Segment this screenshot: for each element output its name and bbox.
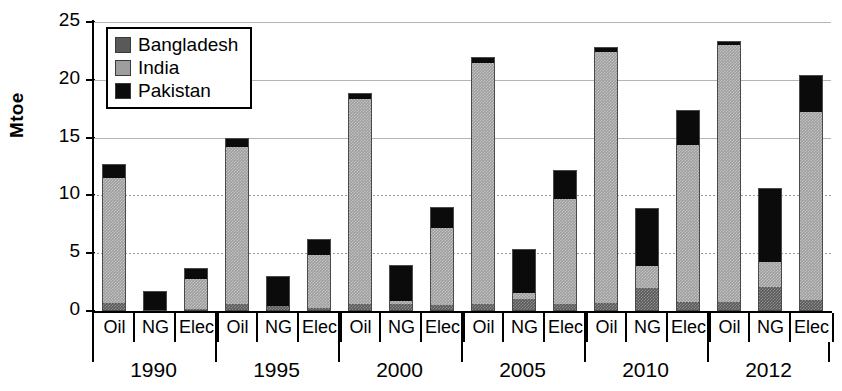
group-label-2010: 2010 [584, 358, 707, 382]
x-label-elec: Elec [789, 313, 834, 342]
bar-segment-india [636, 266, 658, 289]
legend-item: India [115, 56, 238, 79]
bar-segment-pakistan [677, 111, 699, 145]
y-tick-label: 25 [34, 9, 80, 31]
bar-segment-bangladesh [349, 304, 371, 310]
bar-1995-oil [225, 138, 249, 311]
x-label-elec: Elec [297, 313, 342, 342]
x-label-ng: NG [748, 313, 791, 342]
x-axis-group-labels: 199019952000200520102012 [92, 342, 832, 388]
x-label-ng: NG [256, 313, 299, 342]
legend-label-pakistan: Pakistan [138, 81, 211, 100]
bar-segment-pakistan [308, 240, 330, 255]
bar-segment-bangladesh [595, 303, 617, 310]
bar-segment-bangladesh [759, 287, 781, 310]
bar-1995-elec [307, 239, 331, 311]
bar-segment-pakistan [800, 76, 822, 112]
bar-segment-india [226, 147, 248, 305]
bar-segment-india [103, 178, 125, 303]
legend: Bangladesh India Pakistan [106, 27, 252, 109]
legend-swatch-india [115, 60, 131, 76]
bar-segment-india [431, 228, 453, 305]
bar-segment-bangladesh [513, 299, 535, 310]
y-tick-label: 10 [34, 182, 80, 204]
bar-2012-oil [717, 41, 741, 312]
group-label-2012: 2012 [707, 358, 830, 382]
group-label-1990: 1990 [92, 358, 215, 382]
legend-swatch-pakistan [115, 83, 131, 99]
bar-2010-elec [676, 110, 700, 311]
x-label-oil: Oil [92, 313, 135, 342]
bar-2005-oil [471, 57, 495, 311]
y-tick-label: 5 [34, 240, 80, 262]
x-label-ng: NG [502, 313, 545, 342]
x-label-elec: Elec [420, 313, 465, 342]
bar-segment-bangladesh [267, 306, 289, 310]
bar-segment-pakistan [554, 171, 576, 199]
bar-segment-pakistan [431, 208, 453, 228]
bar-segment-pakistan [185, 269, 207, 279]
bar-2012-elec [799, 75, 823, 311]
bar-2010-oil [594, 47, 618, 311]
group-label-1995: 1995 [215, 358, 338, 382]
x-label-ng: NG [133, 313, 176, 342]
x-label-oil: Oil [707, 313, 750, 342]
bar-segment-pakistan [226, 139, 248, 147]
x-label-oil: Oil [215, 313, 258, 342]
bar-1995-ng [266, 276, 290, 311]
bar-segment-india [308, 255, 330, 308]
stacked-bar-chart: Mtoe 0510152025 Bangladesh India Pakista… [0, 0, 842, 391]
legend-label-india: India [138, 58, 179, 77]
bar-2000-ng [389, 265, 413, 311]
bar-segment-bangladesh [308, 308, 330, 310]
x-label-elec: Elec [666, 313, 711, 342]
bar-segment-india [677, 145, 699, 302]
y-tick-label: 0 [34, 298, 80, 320]
bar-segment-bangladesh [554, 304, 576, 310]
bar-1990-oil [102, 164, 126, 311]
legend-swatch-bangladesh [115, 37, 131, 53]
bar-segment-bangladesh [390, 304, 412, 310]
bar-segment-india [718, 45, 740, 302]
x-label-ng: NG [625, 313, 668, 342]
y-axis-line [92, 20, 94, 313]
y-tick-label: 20 [34, 67, 80, 89]
x-label-elec: Elec [543, 313, 588, 342]
x-label-oil: Oil [338, 313, 381, 342]
bar-segment-bangladesh [718, 302, 740, 310]
bar-segment-pakistan [390, 266, 412, 301]
bar-segment-bangladesh [226, 304, 248, 310]
bar-segment-pakistan [759, 189, 781, 262]
bar-1990-ng [143, 291, 167, 311]
bar-2012-ng [758, 188, 782, 311]
bar-segment-bangladesh [800, 300, 822, 310]
bar-segment-bangladesh [103, 303, 125, 310]
bar-segment-bangladesh [185, 309, 207, 310]
x-label-ng: NG [379, 313, 422, 342]
group-label-2005: 2005 [461, 358, 584, 382]
y-tick-label: 15 [34, 125, 80, 147]
bar-1990-elec [184, 268, 208, 311]
bar-segment-india [185, 279, 207, 309]
bar-segment-pakistan [513, 250, 535, 294]
x-label-oil: Oil [461, 313, 504, 342]
bar-2000-elec [430, 207, 454, 311]
bar-segment-pakistan [636, 209, 658, 266]
bar-segment-india [595, 52, 617, 303]
bar-segment-bangladesh [431, 305, 453, 310]
bar-2005-elec [553, 170, 577, 311]
y-axis-title: Mtoe [6, 18, 28, 138]
legend-item: Pakistan [115, 79, 238, 102]
bar-2005-ng [512, 249, 536, 311]
legend-item: Bangladesh [115, 33, 238, 56]
group-separator [828, 342, 830, 362]
legend-label-bangladesh: Bangladesh [138, 35, 238, 54]
bar-segment-india [800, 112, 822, 300]
bar-2000-oil [348, 93, 372, 311]
bar-segment-india [472, 63, 494, 304]
bar-segment-india [759, 262, 781, 287]
bar-segment-bangladesh [636, 288, 658, 310]
bar-segment-bangladesh [472, 304, 494, 310]
bar-2010-ng [635, 208, 659, 311]
gridline [93, 22, 831, 23]
